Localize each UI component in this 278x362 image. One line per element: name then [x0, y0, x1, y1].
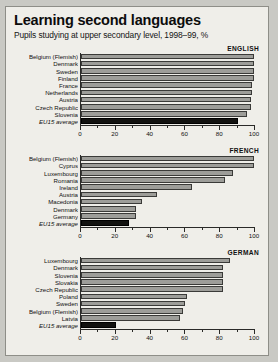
category-axis: Belgium (Flemish)CyprusLuxembourgRomania…: [14, 155, 78, 227]
axis-tick: [167, 125, 168, 128]
axis-tick: [202, 329, 203, 332]
category-label: Austria: [14, 191, 78, 198]
axis-tick-label: 100: [249, 130, 259, 137]
bar-row: [81, 96, 254, 103]
bar-row: [81, 60, 254, 67]
axis-tick-label: 40: [146, 334, 153, 341]
panel-language-label: FRENCH: [229, 147, 259, 154]
bar: [81, 258, 230, 264]
panel-language-label: GERMAN: [228, 249, 259, 256]
bar: [81, 54, 254, 60]
axis-tick: [115, 329, 116, 334]
bar: [81, 272, 223, 278]
bar-row: [81, 170, 254, 177]
bar: [81, 192, 157, 198]
axis-tick-label: 100: [249, 232, 259, 239]
axis-tick: [167, 227, 168, 230]
bar: [81, 279, 223, 285]
bar: [81, 315, 180, 321]
category-label: Luxembourg: [14, 257, 78, 264]
chart-panel-french: FRENCHBelgium (Flemish)CyprusLuxembourgR…: [14, 147, 260, 246]
axis-tick: [150, 329, 151, 334]
bar-row: [81, 206, 254, 213]
category-label: Sweden: [14, 300, 78, 307]
bar-row: [81, 315, 254, 322]
axis-tick: [167, 329, 168, 332]
bar-row: [81, 286, 254, 293]
axis-tick-label: 20: [111, 130, 118, 137]
bar-row: [81, 308, 254, 315]
axis-tick: [132, 329, 133, 332]
bar-row: [81, 272, 254, 279]
bar: [81, 265, 223, 271]
bar: [81, 156, 254, 162]
axis-tick-label: 80: [216, 232, 223, 239]
bar-row: [81, 111, 254, 118]
bar: [81, 111, 247, 117]
bar: [81, 61, 254, 67]
category-label: Romania: [14, 177, 78, 184]
plot-area: LuxembourgDenmarkSloveniaSlovakiaCzech R…: [14, 257, 260, 348]
bar: [81, 286, 223, 292]
category-label: Sweden: [14, 68, 78, 75]
category-label: Slovakia: [14, 279, 78, 286]
axis-tick-label: 0: [78, 130, 81, 137]
axis-tick-label: 60: [181, 232, 188, 239]
bar-row: [81, 53, 254, 60]
category-label: Luxembourg: [14, 170, 78, 177]
axis-tick: [80, 329, 81, 334]
bar-row: [81, 293, 254, 300]
category-label: EU15 average: [14, 220, 78, 227]
bar: [81, 170, 233, 176]
bar-row: [81, 155, 254, 162]
chart-panel-german: GERMANLuxembourgDenmarkSloveniaSlovakiaC…: [14, 249, 260, 348]
bar-row: [81, 322, 254, 329]
axis-tick: [237, 227, 238, 230]
axis-tick: [132, 125, 133, 128]
category-label: Denmark: [14, 60, 78, 67]
category-label: Austria: [14, 96, 78, 103]
bar: [81, 163, 254, 169]
axis-tick: [150, 125, 151, 130]
bars-container: [80, 257, 254, 329]
axis-tick: [184, 227, 185, 232]
axis-tick: [97, 227, 98, 230]
axis-tick: [219, 329, 220, 334]
axis-tick: [184, 329, 185, 334]
axis-tick-label: 100: [249, 334, 259, 341]
plot-area: Belgium (Flemish)CyprusLuxembourgRomania…: [14, 155, 260, 246]
axis-tick-label: 60: [181, 130, 188, 137]
category-label: Finland: [14, 75, 78, 82]
axis-tick: [237, 329, 238, 332]
bar: [81, 68, 254, 74]
bar: [81, 301, 185, 307]
axis-tick: [254, 329, 255, 334]
category-label: Denmark: [14, 206, 78, 213]
bar-row: [81, 162, 254, 169]
axis-tick-label: 0: [78, 232, 81, 239]
category-label: Belgium (Flemish): [14, 155, 78, 162]
category-label: Germany: [14, 213, 78, 220]
bar-row: [81, 118, 254, 125]
bar-row: [81, 89, 254, 96]
bars-container: [80, 155, 254, 227]
bar: [81, 75, 254, 81]
category-axis: Belgium (Flemish)DenmarkSwedenFinlandFra…: [14, 53, 78, 125]
axis-tick: [202, 125, 203, 128]
bar: [81, 184, 192, 190]
page-title: Learning second languages: [14, 13, 268, 28]
axis-tick: [80, 227, 81, 232]
bar: [81, 294, 187, 300]
bar-row: [81, 82, 254, 89]
axis-tick-label: 40: [146, 232, 153, 239]
plot-area: Belgium (Flemish)DenmarkSwedenFinlandFra…: [14, 53, 260, 144]
category-label: Cyprus: [14, 162, 78, 169]
value-axis: 020406080100: [80, 329, 254, 345]
category-label: Denmark: [14, 264, 78, 271]
bar: [81, 97, 251, 103]
axis-tick: [80, 125, 81, 130]
axis-tick-label: 20: [111, 232, 118, 239]
axis-tick: [254, 227, 255, 232]
bar-row: [81, 184, 254, 191]
value-axis: 020406080100: [80, 125, 254, 141]
